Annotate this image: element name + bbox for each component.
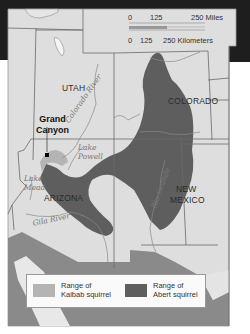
- legend-swatch-abert: [125, 284, 147, 297]
- label-new-mexico-2: MEXICO: [170, 196, 205, 205]
- label-new-mexico-1: NEW: [176, 185, 196, 194]
- label-arizona: ARIZONA: [44, 194, 83, 203]
- legend-swatch-kaibab: [33, 284, 55, 297]
- label-lake-mead-2: Mead: [24, 184, 45, 192]
- label-colorado: COLORADO: [168, 97, 218, 106]
- map-legend: Range of Kaibab squirrel Range of Abert …: [26, 274, 206, 308]
- legend-label-kaibab: Range of Kaibab squirrel: [61, 281, 111, 299]
- label-lake-powell-1: Lake: [78, 144, 96, 152]
- label-lake-powell-2: Powell: [78, 153, 103, 161]
- label-lake-mead-1: Lake: [24, 175, 42, 183]
- legend-label-abert: Range of Abert squirrel: [153, 281, 198, 299]
- grand-canyon-marker: [45, 153, 49, 157]
- scale-km-125: 125: [140, 37, 153, 45]
- scale-km-0: 0: [128, 37, 132, 45]
- scale-miles-250: 250 Miles: [191, 14, 223, 22]
- label-grand-canyon-2: Canyon: [36, 125, 69, 136]
- scale-km-250: 250 Kilometers: [163, 37, 213, 45]
- scale-miles-125: 125: [150, 14, 163, 22]
- scale-miles-0: 0: [128, 14, 132, 22]
- map-figure: 0 125 250 Miles 0 125 250 Kilometers UTA…: [0, 0, 250, 334]
